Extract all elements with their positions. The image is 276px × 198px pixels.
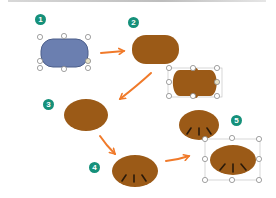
step-1-shape[interactable]	[37, 33, 90, 71]
arrow-2-to-3	[120, 73, 151, 99]
step-4-shape[interactable]	[112, 155, 158, 187]
arrow-4-to-5	[166, 156, 189, 161]
step-badge-1: 1	[35, 14, 46, 25]
arrow-1-to-2	[101, 51, 124, 53]
step-badge-2: 2	[128, 17, 139, 28]
step-2-selected-copy[interactable]	[166, 65, 222, 98]
step-5-shape[interactable]	[202, 135, 261, 182]
step-5-reference-shape[interactable]	[179, 110, 219, 140]
arrow-3-to-4	[100, 136, 115, 154]
step-badge-4: 4	[89, 162, 100, 173]
step-badge-3: 3	[43, 99, 54, 110]
step-badge-5: 5	[231, 115, 242, 126]
step-3-shape[interactable]	[64, 99, 108, 131]
diagram-canvas	[0, 0, 276, 198]
step-2-shape[interactable]	[132, 35, 179, 64]
